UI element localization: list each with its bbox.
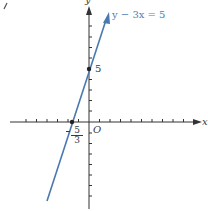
x-axis xyxy=(10,119,202,125)
origin-label: O xyxy=(93,125,101,135)
fraction-denominator: 3 xyxy=(70,136,84,145)
y-axis-label: y xyxy=(85,0,91,5)
y-axis-arrow-icon xyxy=(86,6,92,15)
fraction-numerator: 5 xyxy=(70,126,84,135)
corner-fragment xyxy=(4,3,7,9)
coordinate-plane xyxy=(0,0,208,211)
y-intercept-point xyxy=(87,67,91,71)
x-axis-arrow-icon xyxy=(193,119,202,125)
x-intercept-point xyxy=(70,120,74,124)
y-intercept-label: 5 xyxy=(95,64,101,74)
line-arrow-icon xyxy=(103,12,110,24)
equation-label: y − 3x = 5 xyxy=(112,9,166,20)
x-axis-label: x xyxy=(202,117,208,127)
graph-line xyxy=(47,12,110,201)
y-axis xyxy=(86,6,92,209)
x-intercept-label: 5 3 xyxy=(70,126,84,145)
